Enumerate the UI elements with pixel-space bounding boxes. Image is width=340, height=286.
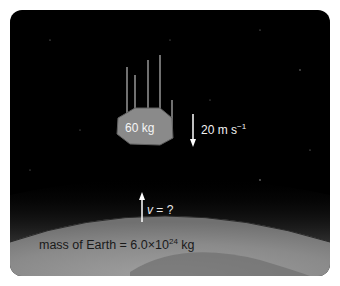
diagram-panel: 60 kg 20 m s−1 v = ? mass of Earth = 6.0… xyxy=(10,10,330,276)
stars xyxy=(30,29,311,180)
meteor-mass-label: 60 kg xyxy=(125,121,154,135)
meteor-velocity-label: 20 m s−1 xyxy=(201,122,246,137)
meteor-velocity-arrow xyxy=(190,114,196,147)
earth-mass-label: mass of Earth = 6.0×1024 kg xyxy=(39,237,195,252)
earth-velocity-label: v = ? xyxy=(147,203,173,217)
